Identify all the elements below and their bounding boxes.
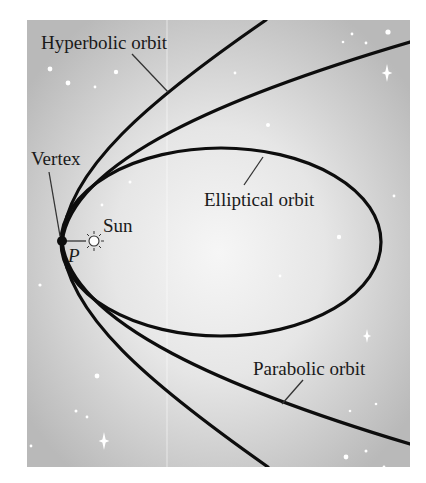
star-icon bbox=[393, 195, 396, 198]
star-icon bbox=[365, 450, 368, 453]
star-icon bbox=[337, 235, 341, 239]
star-icon bbox=[66, 81, 71, 86]
star-icon bbox=[266, 123, 270, 127]
star-icon bbox=[383, 466, 386, 469]
conic-orbits-figure: Hyperbolic orbit Elliptical orbit Parabo… bbox=[0, 0, 426, 483]
star-icon bbox=[86, 416, 89, 419]
vertex-label: Vertex bbox=[31, 148, 81, 169]
star-icon bbox=[30, 445, 33, 448]
parabolic-orbit-label: Parabolic orbit bbox=[253, 358, 366, 379]
star-icon bbox=[344, 455, 349, 460]
point-p-label: P bbox=[67, 245, 80, 266]
star-icon bbox=[349, 410, 352, 413]
star-icon bbox=[38, 283, 41, 286]
sun-label: Sun bbox=[103, 215, 133, 236]
star-icon bbox=[365, 42, 368, 45]
star-icon bbox=[129, 181, 132, 184]
star-icon bbox=[279, 275, 282, 278]
star-icon bbox=[95, 374, 100, 379]
space-background bbox=[27, 20, 410, 467]
hyperbolic-orbit-label: Hyperbolic orbit bbox=[41, 32, 168, 53]
elliptical-orbit-label: Elliptical orbit bbox=[204, 189, 315, 210]
orbit-diagram: Hyperbolic orbit Elliptical orbit Parabo… bbox=[0, 0, 426, 483]
star-icon bbox=[75, 410, 78, 413]
star-icon bbox=[375, 403, 378, 406]
star-icon bbox=[114, 70, 118, 74]
star-icon bbox=[385, 29, 390, 34]
star-icon bbox=[94, 86, 97, 89]
star-icon bbox=[234, 72, 237, 75]
star-icon bbox=[48, 67, 53, 72]
star-icon bbox=[342, 41, 345, 44]
star-icon bbox=[101, 204, 104, 207]
vertex-dot-icon bbox=[57, 236, 67, 246]
star-icon bbox=[351, 33, 354, 36]
